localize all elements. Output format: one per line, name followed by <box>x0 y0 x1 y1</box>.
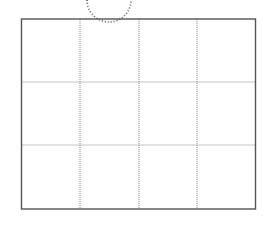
grid-lines <box>22 19 256 209</box>
grid-diagram <box>0 0 274 226</box>
